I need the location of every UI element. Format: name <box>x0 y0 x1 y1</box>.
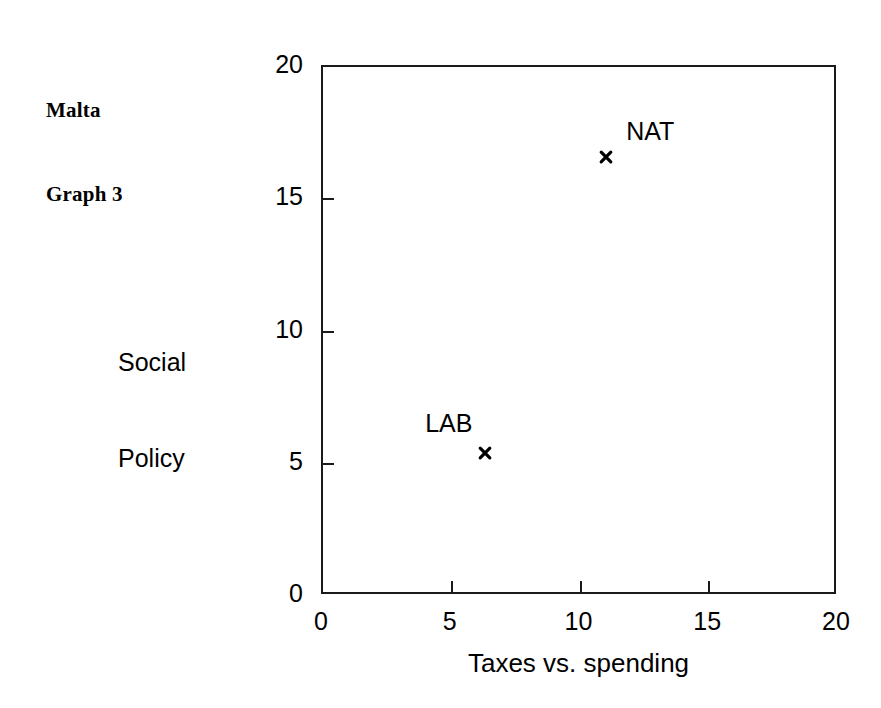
x-tick-mark <box>708 581 710 592</box>
x-tick-mark <box>451 581 453 592</box>
data-point-marker <box>598 149 614 165</box>
scatter-plot-figure: Malta Graph 3 Social Policy Taxes vs. sp… <box>0 0 881 708</box>
figure-title-line-2: Graph 3 <box>46 180 123 208</box>
plot-area: NATLAB <box>321 65 836 594</box>
x-tick-mark <box>580 581 582 592</box>
y-tick-mark <box>323 198 334 200</box>
x-tick-label: 5 <box>420 609 480 634</box>
data-point-label: NAT <box>626 119 674 144</box>
data-point-label: LAB <box>425 411 472 436</box>
data-point-marker <box>477 445 493 461</box>
x-tick-label: 15 <box>677 609 737 634</box>
y-tick-label: 0 <box>243 581 303 606</box>
y-tick-mark <box>323 331 334 333</box>
y-tick-mark <box>323 463 334 465</box>
y-tick-label: 20 <box>243 52 303 77</box>
x-tick-label: 10 <box>549 609 609 634</box>
x-tick-label: 20 <box>806 609 866 634</box>
x-axis-title: Taxes vs. spending <box>321 648 836 678</box>
y-tick-label: 10 <box>243 317 303 342</box>
figure-title-line-1: Malta <box>46 96 123 124</box>
y-tick-label: 5 <box>243 449 303 474</box>
x-tick-label: 0 <box>291 609 351 634</box>
y-axis-title-line-1: Social <box>118 346 288 378</box>
y-tick-label: 15 <box>243 184 303 209</box>
figure-title: Malta Graph 3 <box>46 40 123 264</box>
